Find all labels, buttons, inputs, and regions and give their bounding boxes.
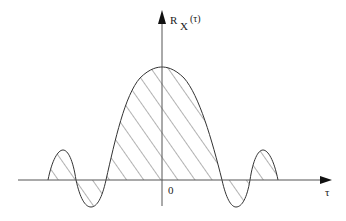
hatched-area [48, 67, 278, 207]
y-axis-label-arg: (τ) [190, 13, 201, 25]
autocorrelation-diagram: R X (τ) 0 τ [0, 0, 346, 221]
y-axis-arrow-icon [158, 10, 166, 24]
x-axis-arrow-icon [320, 176, 332, 184]
x-axis-label: τ [325, 186, 330, 198]
y-axis-label-main: R [170, 14, 178, 26]
origin-label: 0 [168, 184, 174, 196]
y-axis-label-sub: X [180, 20, 188, 32]
